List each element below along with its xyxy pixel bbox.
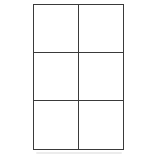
- grid-cell-r3c2: [79, 101, 124, 149]
- page-canvas: [0, 0, 141, 157]
- grid-cell-r2c2: [79, 53, 124, 101]
- scan-artifact-line: [36, 152, 122, 154]
- blank-table-grid: [33, 4, 124, 150]
- grid-cell-r1c1: [34, 5, 79, 53]
- grid-cell-r3c1: [34, 101, 79, 149]
- grid-cell-r2c1: [34, 53, 79, 101]
- grid-cell-r1c2: [79, 5, 124, 53]
